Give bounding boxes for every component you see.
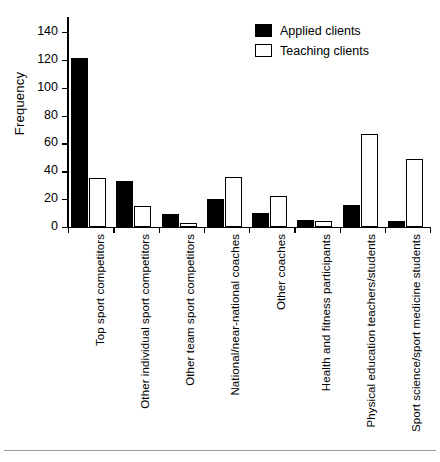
y-axis-title: Frequency [12, 59, 27, 149]
bar-applied-clients [116, 181, 133, 227]
y-tick-mark [62, 199, 68, 200]
x-category-label: Physical education teachers/students [365, 234, 377, 427]
bar-applied-clients [297, 220, 314, 227]
x-category-label: Other individual sport competitors [139, 234, 151, 409]
bar-applied-clients [252, 213, 269, 227]
x-tick-mark [159, 227, 160, 233]
y-tick-label: 0 [51, 219, 58, 233]
y-tick-mark [62, 32, 68, 33]
x-tick-mark [340, 227, 341, 233]
x-tick-mark [113, 227, 114, 233]
legend-label-teaching-clients: Teaching clients [280, 44, 369, 58]
legend-item-teaching-clients: Teaching clients [255, 42, 369, 59]
y-tick-label: 120 [37, 52, 58, 66]
bar-teaching-clients [270, 196, 287, 227]
y-tick-label: 40 [44, 163, 58, 177]
bar-applied-clients [207, 199, 224, 227]
bar-teaching-clients [89, 178, 106, 227]
x-tick-mark [204, 227, 205, 233]
bar-chart-figure: Frequency 020406080100120140 Top sport c… [0, 0, 440, 462]
bar-applied-clients [71, 58, 88, 227]
y-tick-label: 140 [37, 24, 58, 38]
bar-applied-clients [162, 214, 179, 227]
x-tick-mark [385, 227, 386, 233]
chart-legend: Applied clients Teaching clients [255, 22, 369, 62]
bar-teaching-clients [134, 206, 151, 227]
legend-swatch-filled-square-icon [255, 24, 272, 37]
legend-swatch-open-square-icon [255, 44, 272, 57]
x-category-label: Top sport competitors [94, 234, 106, 346]
bar-teaching-clients [406, 159, 423, 227]
plot-area: 020406080100120140 [68, 18, 430, 227]
x-category-label: National/near-national coaches [229, 234, 241, 396]
x-tick-mark [430, 227, 431, 233]
y-tick-label: 100 [37, 80, 58, 94]
x-category-label: Other coaches [275, 234, 287, 310]
bar-teaching-clients [180, 223, 197, 227]
bar-applied-clients [388, 221, 405, 227]
legend-label-applied-clients: Applied clients [280, 24, 361, 38]
bar-applied-clients [343, 205, 360, 227]
y-tick-mark [62, 60, 68, 61]
y-tick-label: 80 [44, 108, 58, 122]
y-tick-mark [62, 116, 68, 117]
bar-teaching-clients [315, 221, 332, 227]
y-tick-label: 60 [44, 135, 58, 149]
y-tick-label: 20 [44, 191, 58, 205]
x-tick-mark [249, 227, 250, 233]
y-tick-mark [62, 171, 68, 172]
bar-teaching-clients [225, 177, 242, 227]
x-tick-mark [294, 227, 295, 233]
x-tick-mark [68, 227, 69, 233]
x-category-label: Health and fitness participants [320, 234, 332, 391]
legend-item-applied-clients: Applied clients [255, 22, 369, 39]
y-tick-mark [62, 88, 68, 89]
footer-divider [4, 450, 436, 451]
x-category-label: Sport science/sport medicine students [410, 234, 422, 432]
y-tick-mark [62, 143, 68, 144]
x-category-label: Other team sport competitors [184, 234, 196, 386]
bar-teaching-clients [361, 134, 378, 227]
